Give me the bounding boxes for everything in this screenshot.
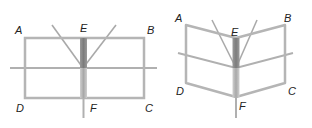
label-f: F: [90, 102, 98, 114]
spine-ef-top: [80, 38, 87, 68]
label-c: C: [288, 85, 296, 97]
label-b: B: [284, 12, 291, 24]
label-a: A: [14, 24, 22, 36]
spine-ef-top: [233, 38, 240, 68]
diagonal-left: [52, 25, 83, 68]
figure-folded: A E B D F C: [174, 12, 296, 118]
diagonal-right: [83, 25, 116, 68]
label-d: D: [176, 85, 184, 97]
spine-ef-bottom: [233, 68, 240, 97]
label-c: C: [145, 102, 153, 114]
label-a: A: [174, 12, 182, 24]
figure-flat: A E B D F C: [10, 22, 157, 118]
label-e: E: [80, 22, 88, 34]
geometry-diagram: A E B D F C A E B D F C: [0, 0, 312, 128]
label-e: E: [231, 26, 239, 38]
label-d: D: [16, 102, 24, 114]
label-b: B: [147, 24, 154, 36]
label-f: F: [239, 100, 247, 112]
spine-ef-bottom: [80, 68, 87, 98]
